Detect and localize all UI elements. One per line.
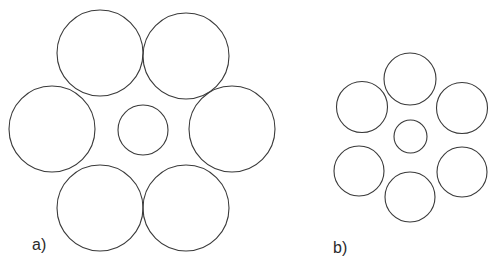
circle-b-outer-lower-right <box>437 147 487 197</box>
circle-b-outer-lower-left <box>334 146 384 196</box>
panel-label-b: b) <box>333 239 347 256</box>
circle-a-center <box>118 105 168 155</box>
circle-a-outer-right <box>189 86 275 172</box>
circle-a-outer-left <box>9 86 95 172</box>
panel-a: a) <box>9 10 275 253</box>
circle-b-outer-bottom <box>385 172 435 222</box>
circle-a-outer-bottom-right <box>143 165 229 251</box>
panel-b: b) <box>333 53 488 256</box>
panel-label-a: a) <box>32 236 46 253</box>
circle-b-outer-upper-left <box>337 82 388 133</box>
circle-a-outer-bottom-left <box>57 165 143 251</box>
circle-b-center <box>394 120 427 153</box>
circle-a-outer-top-left <box>57 10 143 96</box>
circle-packing-figure: a) b) <box>0 0 502 274</box>
circle-b-outer-upper-right <box>437 83 488 134</box>
circle-a-outer-top-right <box>143 13 229 99</box>
circle-b-outer-top <box>384 53 436 105</box>
